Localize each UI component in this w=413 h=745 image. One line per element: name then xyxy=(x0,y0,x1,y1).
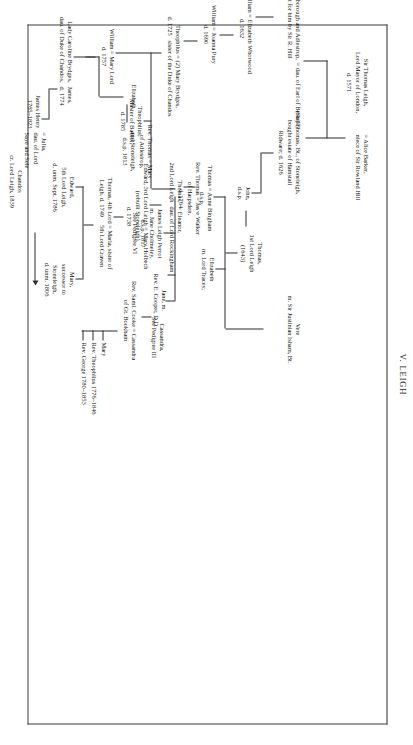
line-edward3-drop xyxy=(113,216,123,217)
line-thomas4-drop xyxy=(83,224,93,225)
line-thomas1-sib-bar xyxy=(224,196,225,328)
node-alice-barker: = Alice Barker, niece of Sir Rowland Hil… xyxy=(352,134,369,242)
line-gen1-sib-bar xyxy=(326,60,327,138)
line-gen1-to-thomas-bt xyxy=(305,137,327,138)
line-to-edward5 xyxy=(75,186,83,187)
line-cassandra-drop xyxy=(141,316,151,317)
line-cooke-child2 xyxy=(92,330,93,340)
node-william-1757: William = Mary Lord d. 1757 xyxy=(98,18,115,94)
plate-title: V. LEIGH xyxy=(397,24,407,724)
line-to-james-henry xyxy=(41,118,49,119)
line-sirwilliam-drop xyxy=(219,34,233,35)
line-rowland-drop xyxy=(255,16,273,17)
line-to-elizabeth-b xyxy=(99,96,123,97)
node-john-dsp: John, d.s.p. xyxy=(234,176,251,210)
line-thomasbt-drop xyxy=(261,152,273,153)
node-cooke-child-mary: Mary xyxy=(99,342,107,428)
node-rev-thomas-adlestrop: Rev. Thomas = Mary of Adlestrop, and Sto… xyxy=(120,108,153,194)
node-rev-thomas-walker: Rev. Thomas = Jas·e Walker of Harpsden, … xyxy=(176,146,201,250)
line-james1774-drop xyxy=(49,88,57,89)
node-chandos: Chandos cr. Lord Leigh, 1839 xyxy=(6,132,23,230)
node-rowland-longborough: Rowland of Longborough and Adlestrop, bo… xyxy=(284,0,301,58)
node-rev-saml-cooke: Rev. Saml. Cooke = Cassandra of Gt. Book… xyxy=(120,262,137,378)
line-theo1725-drop xyxy=(151,52,161,53)
line-thomasbt-bar xyxy=(260,152,261,192)
line-cooke-child1 xyxy=(102,330,103,340)
line-gen1-to-rowland xyxy=(303,60,327,61)
line-thomas1-drop xyxy=(225,252,237,253)
line-to-william1757 xyxy=(115,52,151,53)
line-to-thomas-anne xyxy=(213,196,225,197)
line-william1690-drop xyxy=(183,40,197,41)
node-edward-5th-lord: Edward, 5th Lord Leigh, d. unm. Sept. 17… xyxy=(50,142,75,232)
line-to-rev-thomas xyxy=(151,188,175,189)
node-sir-william: Sir William = Elizabeth Whorwood d. 1632 xyxy=(236,0,253,88)
node-thomas-1st-lord: Thomas, 1st Lord Leigh (1643) xyxy=(238,222,263,284)
line-james1774-bar xyxy=(48,88,49,118)
pedigree-plate-stage: V. LEIGH Sir Thomas Leigh, Lord Mayor of… xyxy=(0,0,413,745)
node-thomas-4th-lord: Thomas, 4th Lord = Maria, sister of Leig… xyxy=(96,134,113,312)
line-to-vere xyxy=(225,328,263,329)
node-sir-thomas-bt: (Sir) Thomas, Bt., of Stoneleigh, bought… xyxy=(276,92,301,212)
node-cassandra-pedigree-iii: Cassandra, See Pedigree III xyxy=(148,300,165,374)
line-to-james1774 xyxy=(73,56,99,57)
line-to-jane-cooper xyxy=(167,274,175,275)
arrow-continuation-icon xyxy=(32,280,38,285)
line-revthomas-sib-bar xyxy=(174,196,175,300)
node-cooke-child-theophilus: Rev. Theophilus 1776–1846 xyxy=(89,342,97,442)
line-william1757-sib-bar xyxy=(98,56,99,96)
line-thomas4-sib-bar xyxy=(82,186,83,278)
line-mary-tick xyxy=(126,104,127,122)
line-to-elizabeth-tracey xyxy=(215,268,225,269)
pedigree-plate: V. LEIGH Sir Thomas Leigh, Lord Mayor of… xyxy=(0,0,413,745)
node-william-1690: William = Joanna Pury d. 1690 xyxy=(200,0,217,90)
line-to-james-leigh-perrot xyxy=(163,232,175,233)
line-thomasbt-to-john xyxy=(251,192,261,193)
node-james-henry: James Henry 1765–1823 xyxy=(24,66,41,128)
line-cooke-drop xyxy=(105,330,117,331)
node-vere-isham: Vere m. Sir Justinian Isham, Bt. xyxy=(284,272,301,386)
node-mary-successor: Mary, successor to Stoneleigh, d. unm. 1… xyxy=(42,238,75,320)
node-lady-caroline-brydges: Lady Caroline Brydges, dau. of Duke of C… xyxy=(56,0,73,82)
node-sir-thomas-leigh: Sir Thomas Leigh, Lord Mayor of London, … xyxy=(344,36,369,128)
line-to-mary-successor xyxy=(75,278,83,279)
line-cooke-child3 xyxy=(82,330,83,340)
node-james-1774: James, d. 1774 xyxy=(56,86,73,138)
node-julia-saye-sele: = Julia, dau. of Lord Saye and Sele xyxy=(22,132,47,206)
line-gen1-drop xyxy=(327,137,345,138)
line-chandos-continues xyxy=(34,232,35,280)
node-cooke-child-george: Rev. George 1780–1853 xyxy=(79,342,87,442)
